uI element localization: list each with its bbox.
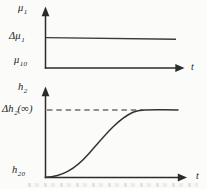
two-panel-response-figure: μ1 Δμ1 μ10 t h2 Δh2(∞) h20 t — [0, 0, 207, 189]
top-plot-axes — [45, 12, 177, 69]
bottom-y-axis-arrow-icon — [42, 87, 50, 97]
top-y-axis-label-base: μ — [18, 2, 23, 13]
top-y-axis-label-sub: 1 — [24, 8, 28, 16]
asymptote-label: Δh2(∞) — [2, 104, 33, 115]
bottom-x-axis-label: t — [196, 171, 199, 181]
scan-artifact-band — [28, 183, 198, 187]
top-origin-label: μ10 — [14, 55, 27, 66]
top-x-axis-label: t — [191, 62, 194, 72]
bottom-plot-axes — [45, 92, 179, 178]
bottom-x-axis-arrow-icon — [178, 174, 187, 182]
step-level-label: Δμ1 — [9, 31, 25, 42]
top-x-axis-arrow-icon — [175, 64, 184, 72]
plot-canvas — [0, 0, 207, 189]
bottom-origin-label: h20 — [12, 165, 25, 176]
top-y-axis-arrow-icon — [42, 7, 50, 17]
bottom-y-axis-label: h2 — [18, 82, 27, 93]
step-input-line — [46, 38, 177, 40]
response-curve — [46, 110, 179, 177]
top-y-axis-label: μ1 — [18, 3, 27, 14]
